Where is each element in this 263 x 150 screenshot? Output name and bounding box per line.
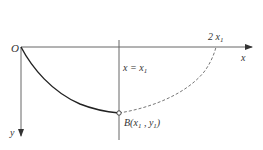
- y-axis-label: y: [9, 127, 15, 138]
- vertical-line-label: x = x1: [122, 62, 147, 75]
- point-b: [117, 111, 121, 115]
- dashed-curve: [119, 47, 216, 113]
- point-b-label: B(x1 , y1): [124, 117, 161, 130]
- origin-label: O: [11, 42, 19, 54]
- solid-curve: [21, 47, 119, 113]
- x-axis-label: x: [240, 52, 246, 63]
- top-mark-label: 2 x1: [208, 31, 223, 44]
- diagram-canvas: O x y x = x1 2 x1 B(x1 , y1): [0, 0, 263, 150]
